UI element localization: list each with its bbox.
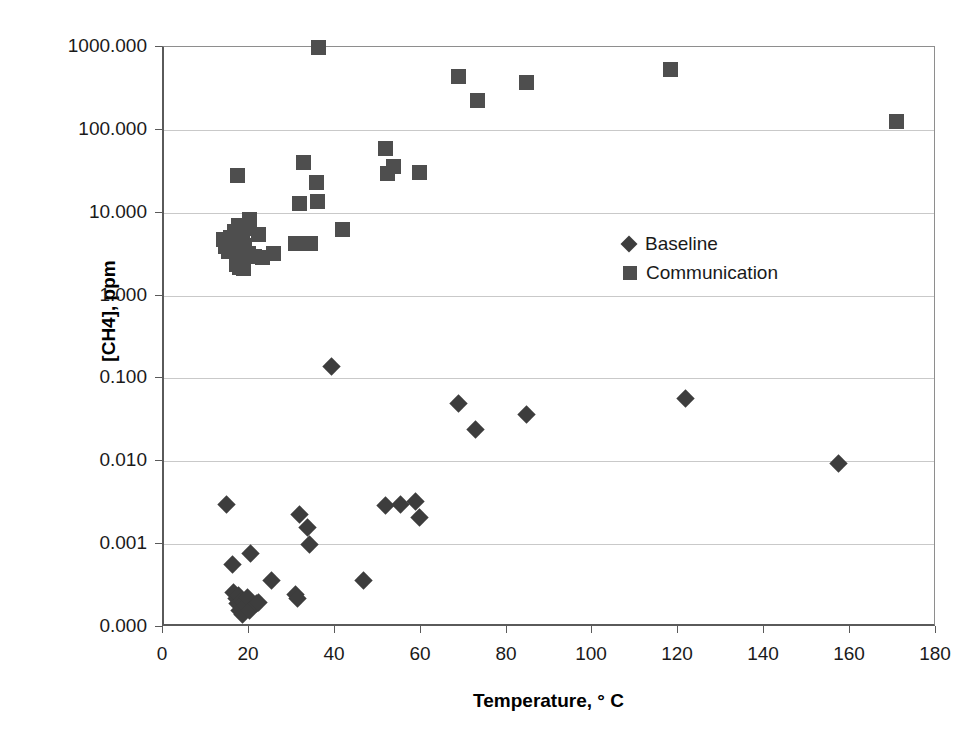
data-point-square (266, 246, 281, 261)
y-axis-tick-label: 0.000 (2, 616, 147, 635)
data-point-square (378, 141, 393, 156)
data-point-square (242, 212, 257, 227)
x-axis-tick-mark (677, 626, 678, 633)
y-axis-tick-label: 0.100 (2, 367, 147, 386)
data-point-square (309, 175, 324, 190)
data-point-diamond (449, 394, 467, 412)
gridline (164, 461, 934, 462)
data-point-diamond (677, 389, 695, 407)
data-point-square (519, 75, 534, 90)
legend-item-communication[interactable]: Communication (623, 258, 778, 287)
x-axis-tick-mark (506, 626, 507, 633)
x-axis-tick-mark (763, 626, 764, 633)
y-axis-tick-mark (155, 295, 162, 296)
y-axis-tick-mark (155, 543, 162, 544)
y-axis-tick-mark (155, 46, 162, 47)
data-point-square (310, 194, 325, 209)
data-point-square (335, 222, 350, 237)
x-axis-tick-label: 160 (809, 644, 889, 663)
data-point-square (311, 40, 326, 55)
legend-label-communication: Communication (646, 262, 778, 284)
legend-label-baseline: Baseline (645, 233, 718, 255)
data-point-square (412, 165, 427, 180)
data-point-square (470, 93, 485, 108)
y-axis-tick-label: 1000.000 (2, 36, 147, 55)
data-point-diamond (223, 555, 241, 573)
y-axis-tick-label: 100.000 (2, 119, 147, 138)
x-axis-tick-label: 180 (895, 644, 975, 663)
data-point-diamond (300, 536, 318, 554)
y-axis-tick-mark (155, 626, 162, 627)
x-axis-tick-mark (935, 626, 936, 633)
plot-area (162, 46, 935, 626)
x-axis-tick-mark (334, 626, 335, 633)
y-axis-tick-label: 0.001 (2, 533, 147, 552)
data-point-diamond (466, 421, 484, 439)
x-axis-tick-label: 120 (637, 644, 717, 663)
data-point-square (386, 159, 401, 174)
y-axis-tick-mark (155, 212, 162, 213)
y-axis-title: [CH4], ppm (98, 196, 120, 426)
data-point-square (451, 69, 466, 84)
y-axis-tick-label: 0.010 (2, 450, 147, 469)
data-point-square (230, 168, 245, 183)
y-axis-tick-label: 10.000 (2, 202, 147, 221)
data-point-diamond (829, 454, 847, 472)
diamond-marker-icon (621, 235, 638, 252)
data-point-square (292, 196, 307, 211)
chart-legend: Baseline Communication (623, 229, 778, 287)
data-point-diamond (262, 572, 280, 590)
gridline (164, 296, 934, 297)
square-marker-icon (623, 266, 637, 280)
x-axis-tick-mark (162, 626, 163, 633)
x-axis-tick-label: 20 (208, 644, 288, 663)
y-axis-tick-mark (155, 129, 162, 130)
gridline (164, 378, 934, 379)
scatter-chart: [CH4], ppm Temperature, ° C Baseline Com… (0, 0, 979, 742)
gridline (164, 213, 934, 214)
x-axis-tick-mark (591, 626, 592, 633)
x-axis-tick-label: 40 (294, 644, 374, 663)
x-axis-tick-label: 140 (723, 644, 803, 663)
data-point-square (251, 227, 266, 242)
data-point-diamond (241, 544, 259, 562)
data-point-diamond (410, 508, 428, 526)
data-point-square (889, 114, 904, 129)
data-point-diamond (391, 495, 409, 513)
data-point-square (236, 261, 251, 276)
x-axis-tick-mark (420, 626, 421, 633)
gridline (164, 130, 934, 131)
data-point-square (288, 236, 303, 251)
legend-item-baseline[interactable]: Baseline (623, 229, 778, 258)
x-axis-tick-label: 80 (466, 644, 546, 663)
y-axis-tick-label: 1.000 (2, 285, 147, 304)
x-axis-title: Temperature, ° C (162, 690, 935, 712)
data-point-diamond (406, 492, 424, 510)
x-axis-tick-label: 100 (551, 644, 631, 663)
x-axis-tick-mark (849, 626, 850, 633)
data-point-square (296, 155, 311, 170)
y-axis-tick-mark (155, 377, 162, 378)
data-point-diamond (322, 357, 340, 375)
y-axis-tick-mark (155, 460, 162, 461)
data-point-diamond (354, 572, 372, 590)
x-axis-tick-label: 0 (122, 644, 202, 663)
data-point-square (663, 62, 678, 77)
gridline (164, 544, 934, 545)
x-axis-tick-label: 60 (380, 644, 460, 663)
data-point-diamond (217, 495, 235, 513)
data-point-square (303, 236, 318, 251)
data-point-diamond (518, 405, 536, 423)
x-axis-tick-mark (248, 626, 249, 633)
